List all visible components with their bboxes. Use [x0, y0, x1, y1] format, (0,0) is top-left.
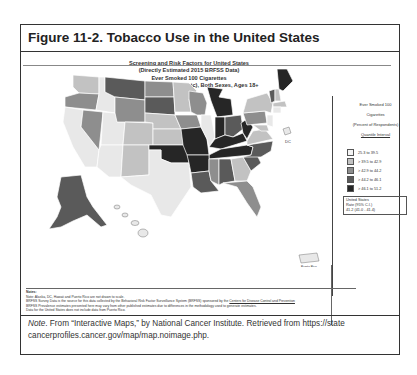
- state-new-york[interactable]: [243, 93, 273, 113]
- legend-swatch: [347, 185, 354, 192]
- state-wyoming[interactable]: [115, 97, 145, 122]
- source-note: Note. From “Interactive Maps,” by Nation…: [28, 318, 393, 342]
- state-south-dakota[interactable]: [145, 97, 175, 115]
- state-wisconsin[interactable]: [189, 91, 207, 115]
- legend-items: 25.3 to 39.5 > 39.5 to 42.9 > 42.9 to 44…: [347, 148, 417, 193]
- state-ohio[interactable]: [225, 115, 243, 137]
- legend-label: > 44.2 to 46.1: [358, 178, 381, 182]
- legend-item[interactable]: 25.3 to 39.5: [347, 148, 417, 157]
- state-maryland[interactable]: [253, 125, 269, 131]
- legend-label: > 46.1 to 51.2: [358, 187, 381, 191]
- state-oregon[interactable]: [65, 93, 99, 110]
- legend-swatch: [347, 167, 354, 174]
- us-rate-value: 41.2 (41.0 - 41.4): [346, 208, 404, 213]
- notes-divider: [26, 288, 356, 289]
- legend-swatch: [347, 176, 354, 183]
- notes-line: Data for the United States does not incl…: [26, 308, 331, 313]
- map-notes: Notes: Note: Alaska, DC, Hawaii and Puer…: [26, 290, 331, 313]
- state-washington[interactable]: [73, 75, 99, 94]
- note-body: . From “Interactive Maps,” by National C…: [28, 319, 345, 340]
- state-alaska[interactable]: [49, 175, 107, 229]
- state-kansas[interactable]: [153, 129, 183, 145]
- dc-label: DC: [285, 139, 291, 144]
- legend-item[interactable]: > 46.1 to 51.2: [347, 184, 417, 193]
- puerto-rico-label: Puerto Rico: [301, 265, 317, 267]
- state-massachusetts[interactable]: [273, 101, 287, 107]
- legend-label: > 39.5 to 42.9: [358, 160, 381, 164]
- dc-inset[interactable]: [283, 127, 291, 135]
- legend-item[interactable]: > 42.9 to 44.2: [347, 166, 417, 175]
- legend-label: 25.3 to 39.5: [358, 151, 378, 155]
- notes-vertical-divider: [331, 265, 332, 325]
- us-choropleth-map[interactable]: DC Puerto Rico: [21, 67, 321, 267]
- legend-swatch: [347, 149, 354, 156]
- cdc-link[interactable]: Centers for Disease Control and Preventi…: [229, 299, 295, 303]
- subtitle-divider: [23, 65, 391, 66]
- legend-swatch: [347, 158, 354, 165]
- us-rate-box: United States Rate (95% C.I.) 41.2 (41.0…: [343, 196, 407, 215]
- state-arizona[interactable]: [97, 145, 123, 177]
- legend-header-line: (Percent of Respondents): [333, 120, 417, 130]
- puerto-rico[interactable]: [299, 253, 319, 263]
- legend-header-line: Ever Smoked 100: [333, 100, 417, 110]
- state-north-dakota[interactable]: [145, 81, 174, 97]
- state-maine[interactable]: [277, 69, 293, 91]
- state-pennsylvania[interactable]: [243, 111, 267, 125]
- legend-header: Ever Smoked 100 Cigarettes (Percent of R…: [333, 100, 417, 140]
- note-divider: [21, 315, 399, 316]
- state-connecticut[interactable]: [273, 107, 281, 113]
- state-michigan[interactable]: [207, 87, 233, 117]
- legend-header-line: Cigarettes: [333, 110, 417, 120]
- notes-text: BRFSS Survey Data is the source for this…: [26, 299, 229, 303]
- legend-panel: Ever Smoked 100 Cigarettes (Percent of R…: [332, 96, 417, 296]
- state-new-jersey[interactable]: [267, 115, 273, 127]
- note-label: Note: [28, 319, 45, 328]
- state-hawaii[interactable]: [114, 205, 148, 237]
- state-new-mexico[interactable]: [121, 145, 149, 177]
- quantile-interval-link[interactable]: Quantile Interval: [333, 130, 417, 140]
- legend-label: > 42.9 to 44.2: [358, 169, 381, 173]
- figure-frame: Figure 11-2. Tobacco Use in the United S…: [20, 24, 400, 355]
- legend-item[interactable]: > 44.2 to 46.1: [347, 175, 417, 184]
- state-new-hampshire[interactable]: [275, 89, 281, 101]
- state-colorado[interactable]: [123, 122, 153, 145]
- figure-title: Figure 11-2. Tobacco Use in the United S…: [21, 25, 399, 52]
- legend-item[interactable]: > 39.5 to 42.9: [347, 157, 417, 166]
- state-florida[interactable]: [223, 181, 261, 217]
- state-arkansas[interactable]: [187, 155, 209, 173]
